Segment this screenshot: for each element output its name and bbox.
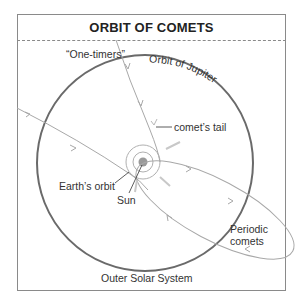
left-one-timer-arrow-1 — [25, 112, 30, 117]
sun-tail-1 — [166, 142, 180, 149]
sun-tail-2 — [160, 177, 170, 186]
periodic-comets-line1: Periodic — [230, 223, 268, 235]
sun-tail-3 — [135, 180, 137, 192]
one-timers-label: “One-timers” — [66, 48, 125, 60]
left-one-timer-arrow-2 — [70, 145, 76, 151]
earths-orbit-leader — [115, 172, 129, 183]
earths-orbit-label: Earth’s orbit — [59, 180, 115, 192]
periodic-comet-orbit — [123, 142, 301, 278]
orbit-of-jupiter-label: Orbit of Jupiter — [149, 53, 220, 86]
outer-solar-system-label: Outer Solar System — [101, 272, 193, 284]
periodic-comets-label: Periodic comets — [230, 223, 268, 247]
left-one-timer-path — [17, 108, 148, 190]
comet-tail-shape — [151, 119, 157, 125]
orbit-diagram: Orbit of Jupiter — [0, 0, 301, 303]
periodic-arrow-2 — [228, 198, 233, 204]
comets-tail-label: comet’s tail — [174, 121, 226, 133]
sun-label: Sun — [117, 194, 136, 206]
periodic-arrow-4 — [167, 215, 172, 221]
periodic-comets-line2: comets — [230, 235, 268, 247]
